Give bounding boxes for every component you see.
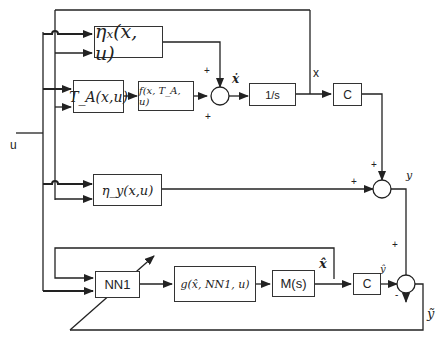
sum1-plus-bottom: +	[205, 112, 211, 122]
input-u-label: u	[10, 139, 17, 151]
m-label: M(s)	[281, 276, 307, 291]
sum2-plus-top: +	[371, 160, 377, 170]
sum2-plus-left: +	[351, 177, 357, 187]
eta-y-block: η_y(x,u)	[93, 174, 162, 206]
ta-block: T_A(x,u)	[73, 80, 124, 113]
eta-x-block: ηₓ(x, u)	[94, 26, 163, 58]
c-bottom-label: C	[363, 277, 372, 291]
f-block: f(x, T_A, u)	[138, 81, 194, 111]
f-label: f(x, T_A, u)	[139, 85, 193, 107]
integrator-label: 1/s	[265, 89, 280, 101]
eta-x-label: ηₓ(x, u)	[95, 20, 162, 64]
y-tilde-label: ỹ	[427, 307, 434, 320]
sum3-plus-top: +	[392, 240, 398, 250]
nn1-block: NN1	[95, 271, 140, 298]
x-dot-label: ẋ	[232, 73, 239, 85]
y-hat-label: ŷ	[380, 264, 386, 274]
g-block: g(x̂, NN1, u)	[174, 266, 256, 302]
block-diagram: ηₓ(x, u) T_A(x,u) f(x, T_A, u) 1/s C η_y…	[0, 0, 443, 344]
eta-y-label: η_y(x,u)	[102, 183, 154, 198]
x-label: x	[313, 67, 319, 79]
g-label: g(x̂, NN1, u)	[180, 278, 249, 291]
c-top-block: C	[333, 83, 362, 106]
nn1-label: NN1	[104, 277, 130, 292]
m-block: M(s)	[272, 270, 315, 297]
sum3-minus-left: -	[395, 290, 398, 300]
y-label: y	[406, 170, 412, 181]
c-bottom-block: C	[353, 273, 381, 295]
c-top-label: C	[343, 88, 352, 102]
integrator-block: 1/s	[249, 83, 296, 106]
x-hat-label: x̂	[319, 257, 327, 270]
ta-label: T_A(x,u)	[69, 89, 128, 105]
sum1-plus-top: +	[204, 66, 210, 76]
